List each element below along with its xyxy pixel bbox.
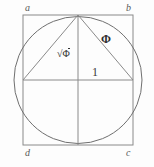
golden-ratio-figure: a b d c √Φ Φ 1: [0, 0, 154, 167]
radicand-group: Φ: [63, 48, 70, 59]
vertex-label-a: a: [25, 3, 30, 13]
measure-label-phi: Φ: [101, 33, 111, 45]
radicand-phi: Φ: [63, 48, 70, 59]
triangle-right-side: [78, 15, 133, 80]
vertex-label-c: c: [126, 148, 130, 158]
measure-label-sqrt-phi: √Φ: [57, 48, 70, 59]
vertex-label-d: d: [25, 148, 30, 158]
measure-label-one: 1: [92, 66, 98, 78]
geometry-canvas: [0, 0, 154, 167]
radical-bar: [68, 48, 70, 49]
vertex-label-b: b: [126, 3, 131, 13]
